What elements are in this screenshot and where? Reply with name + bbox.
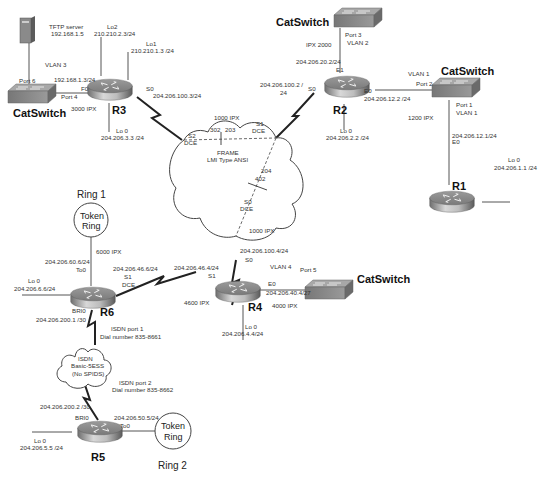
r4-label: R4 [248,301,263,313]
r2-e1-name: E1 [336,66,344,73]
r2-e0-name: E0 [364,87,372,94]
r6-s1-name: S1 [124,273,132,280]
r4-s0-name: S0 [245,256,253,263]
r3-lo2-ip: 210.210.2.3/24 [94,30,136,37]
r6-ipx-to0: 6000 IPX [96,248,121,255]
dlci-302: 302 [210,126,221,133]
r4-ipx-s0: 1000 IPX [249,227,274,234]
r2-lo0-name: Lo 0 [340,127,353,134]
r6-to0-ip: 204.206.60.6/24 [45,258,90,265]
r2-s0-ip-a: 204.206.100.2 / [260,81,303,88]
r5-to0-ip: 204.206.50.5/24 [114,414,159,421]
r3-lo1-ip: 210.210.1.3 /24 [131,47,175,54]
frame-title: FRAME [217,149,239,156]
r4-s0-ip: 204.206.100.4/24 [240,247,289,254]
r3-f0-name: F0 [81,85,89,92]
r6-isdn-link [88,310,95,345]
dlci-204: 204 [261,167,272,174]
r4-e0-name: E0 [268,280,276,287]
sw-r3-vlan: VLAN 3 [45,61,67,68]
frame-s0: S0 [244,198,252,205]
r6-to0-name: To0 [76,266,87,273]
r1-lo0-ip: 204.206.1.1 /24 [494,164,538,171]
dlci-203: 203 [225,126,236,133]
ring1-title: Ring 1 [77,189,106,200]
router-r1-icon [430,191,475,212]
sw-r2-vlan: VLAN 2 [347,39,369,46]
r4-vlan: VLAN 4 [270,263,292,270]
tftp-ip: 192.168.1.5 [51,30,84,37]
r4-lo0-ip: 204.206.4.4/24 [222,330,264,337]
r6-lo0-name: Lo 0 [28,277,41,284]
frame-s2: S2 [188,132,196,139]
r5-lo0-name: Lo 0 [34,437,47,444]
sw-r3-port4: Port 4 [61,93,78,100]
r4-s1-name: S1 [208,272,216,279]
catswitch-r1-icon [432,78,480,97]
r2-e1-ip: 204.206.20.2/24 [296,58,341,65]
sw-r1-port-up: Port 2 [416,80,433,87]
r1-label: R1 [452,180,466,192]
r5-isdn-port: ISDN port 2 [119,379,152,386]
r5-label: R5 [91,451,105,463]
frame-s0-dce: DCE [240,205,253,212]
r1-e0-name: E0 [452,138,460,145]
r4-ipx-s1: 4600 IPX [184,299,209,306]
sw-r3-label: CatSwitch [13,107,66,119]
r6-bri-name: BRI0 [72,307,86,314]
r2-e0-ip: 204.206.12.2 /24 [364,95,411,102]
r5-dial: Dial number 835-8662 [112,386,174,393]
router-r5-icon [78,421,123,442]
r1-lo0-name: Lo 0 [508,156,521,163]
sw-r4-port: Port 5 [300,266,317,273]
r4-lo0-name: Lo 0 [245,323,258,330]
sw-r1-vlan-up: VLAN 1 [408,70,430,77]
sw-r2-label: CatSwitch [276,16,329,28]
isdn-line2: Basic-5ESS [71,362,104,369]
r6-lo0-ip: 204.206.6.6/24 [14,285,56,292]
r5-lo0-ip: 204.206.5.5 /24 [20,444,64,451]
frame-s2-dce: DCE [184,139,197,146]
tftp-server-icon [20,16,35,43]
ring2-line2: Ring [164,432,183,442]
r3-s0-name: S0 [146,85,154,92]
r3-f0-ip: 192.168.1.3/24 [54,76,96,83]
r5-bri-name: BRI0 [75,414,89,421]
sw-r3-port6: Port 6 [19,77,36,84]
r4-e0-ip: 204.206.40.4/27 [266,289,311,296]
r4-s1-ip: 204.206.46.4/24 [174,264,219,271]
r3-label: R3 [112,104,126,116]
r2-s0-ip-b: 24 [280,89,287,96]
r2-label: R2 [333,104,347,116]
ring1-line1: Token [80,211,104,221]
catswitch-r4-icon [305,280,353,299]
r6-s1-dce: DCE [122,281,135,288]
network-diagram: TFTP server 192.168.1.5 VLAN 3 Port 6 Po… [0,0,551,483]
sw-r1-label: CatSwitch [441,65,494,77]
ring2-title: Ring 2 [158,460,187,471]
r3-lo2-name: Lo2 [107,23,118,30]
frame-subtitle: LMI Type ANSI [207,156,248,163]
r2-s0-name: S0 [308,85,316,92]
r6-dial: Dial number 835-8661 [100,333,162,340]
r3-s0-ip: 204.206.100.3/24 [153,92,202,99]
tftp-label: TFTP server [49,23,83,30]
r5-bri-ip: 204.206.200.2 /30 [40,403,90,410]
r1-ipx: 1200 IPX [408,114,433,121]
r2-lo0-ip: 204.206.2.2 /24 [326,134,370,141]
r3-lo0-ip: 204.206.3.3 /24 [101,134,145,141]
frame-s1-dce: DCE [252,127,265,134]
r6-s1-ip: 204.206.46.6/24 [113,265,158,272]
r3-lo0-name: Lo 0 [116,127,129,134]
r3-ipx: 3000 IPX [71,105,96,112]
r2-ipx-e1: IPX 2000 [306,41,332,48]
token-ring-2 [155,413,191,449]
isdn-line1: ISDN [78,355,93,362]
catswitch-r2-icon [334,8,382,27]
r6-isdn-port: ISDN port 1 [111,325,144,332]
r4-ipx-e0: 4000 IPX [272,302,297,309]
r3-lo1-name: Lo1 [146,40,157,47]
dlci-402: 402 [255,175,266,182]
frame-s1: S1 [256,120,264,127]
r6-bri-ip: 204.206.200.1 /30 [36,316,86,323]
